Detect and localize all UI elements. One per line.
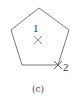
pentagon-outline: [11, 8, 69, 65]
pentagon-figure: 1 2 (c): [0, 0, 76, 100]
point-label-2: 2: [63, 62, 69, 73]
figure-caption: (c): [0, 84, 76, 94]
x-mark-icon: [34, 36, 42, 44]
point-label-1: 1: [33, 23, 39, 34]
